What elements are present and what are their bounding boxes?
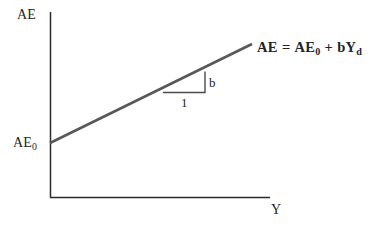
intercept-label-subscript: 0 [32,141,37,152]
equation-plus-operator: + [325,39,334,55]
equation-lhs: AE [257,39,278,55]
intercept-label: AE0 [13,136,37,150]
ae-equation-label: AE = AE0 + bYd [257,40,362,55]
equation-intercept-subscript: 0 [315,46,320,57]
slope-run-label: 1 [181,96,188,109]
equation-intercept-base: AE [295,39,316,55]
y-axis-title: AE [17,8,36,22]
diagram-canvas [0,0,375,231]
aggregate-expenditure-diagram: AE Y AE0 b 1 AE = AE0 + bYd [0,0,375,231]
equation-variable-base: Y [346,39,357,55]
x-axis-title: Y [271,203,281,217]
slope-rise-label: b [209,76,216,89]
equation-variable-subscript: d [356,46,362,57]
equation-slope-coefficient: b [337,39,345,55]
ae-function-line [50,44,252,143]
intercept-label-base: AE [13,135,32,150]
